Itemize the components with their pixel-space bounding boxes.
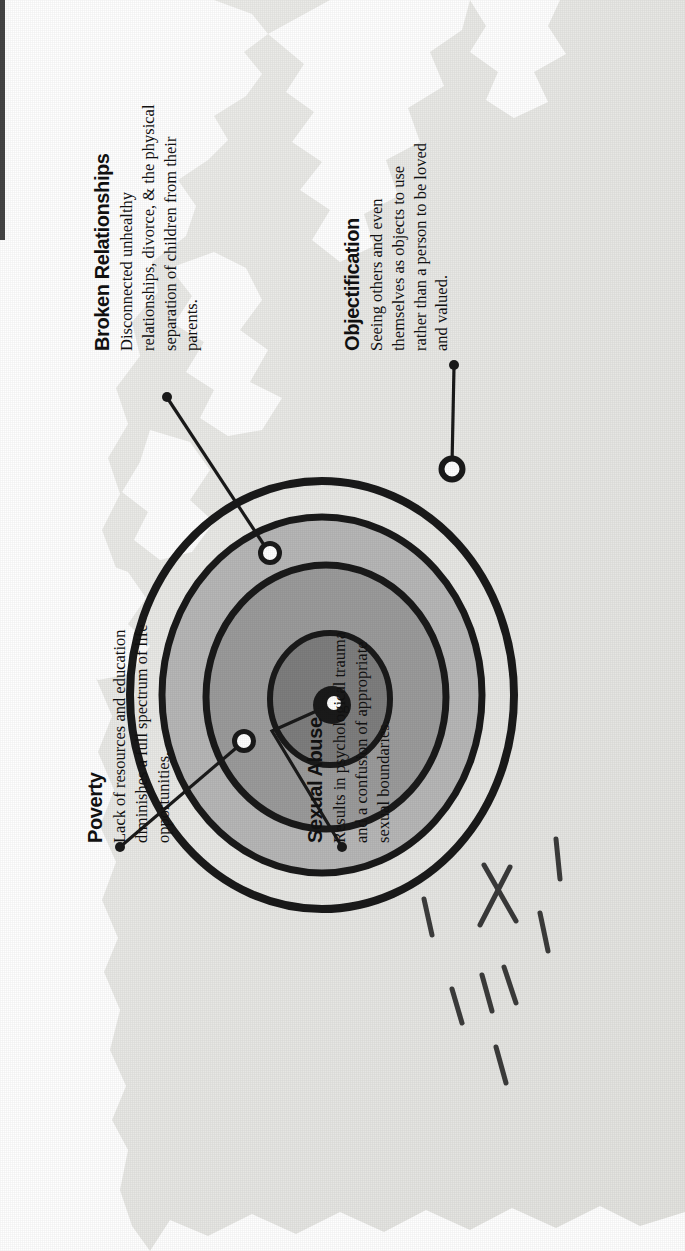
callout-sexual-abuse-title: Sexual Abuse <box>305 605 326 843</box>
dash-7 <box>496 1047 506 1083</box>
infographic-page: Poverty Lack of resources and education … <box>0 0 685 1251</box>
dash-2 <box>482 975 492 1011</box>
rotated-content-layer: Poverty Lack of resources and education … <box>0 0 685 1251</box>
dash-1 <box>452 989 462 1023</box>
dash-3 <box>504 967 516 1003</box>
dash-5 <box>556 839 560 879</box>
callout-poverty-body: Lack of resources and education diminish… <box>109 613 174 843</box>
callout-sexual-abuse: Sexual Abuse Results in psychological tr… <box>305 605 394 843</box>
callout-poverty: Poverty Lack of resources and education … <box>85 613 174 843</box>
callout-poverty-title: Poverty <box>85 613 106 843</box>
callout-broken-relationships-body: Disconnected unhealthy relationships, di… <box>116 101 203 351</box>
dash-4 <box>540 913 548 951</box>
callout-broken-relationships: Broken Relationships Disconnected unheal… <box>92 101 203 351</box>
callout-objectification-title: Objectification <box>342 126 363 351</box>
dash-6 <box>424 899 432 935</box>
callout-sexual-abuse-body: Results in psychological trauma and a co… <box>329 605 394 843</box>
callout-objectification-body: Seeing others and even themselves as obj… <box>366 126 453 351</box>
callout-broken-relationships-title: Broken Relationships <box>92 101 113 351</box>
x-mark-on-outer-ring <box>480 865 516 925</box>
callout-objectification: Objectification Seeing others and even t… <box>342 126 453 351</box>
x-stroke-a <box>480 867 510 925</box>
